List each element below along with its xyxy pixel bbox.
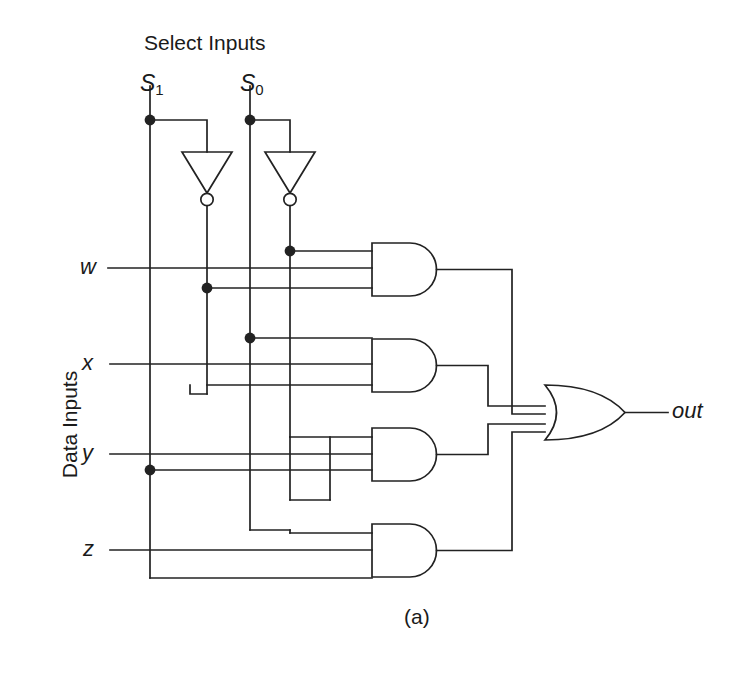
inverter-s1-bubble <box>201 193 213 205</box>
select-input-label-s1: S1 <box>140 72 164 97</box>
data-input-label-w: w <box>80 256 96 278</box>
circuit-schematic <box>0 0 748 696</box>
wire-s1-to-inverter <box>150 120 207 152</box>
data-inputs-label: Data Inputs <box>59 340 80 510</box>
junction-s1-and3 <box>145 465 156 476</box>
and-gate-2-body <box>372 339 437 392</box>
data-input-label-y: y <box>82 442 93 464</box>
wire-s0-to-inverter <box>250 120 290 152</box>
junction-s0n-and1 <box>285 246 296 257</box>
inverter-s1-body <box>182 152 232 193</box>
junction-s1n-and1 <box>202 283 213 294</box>
and-gate-1-body <box>372 243 437 296</box>
select-input-label-s0: S0 <box>240 72 264 97</box>
wire-and1-out <box>437 270 546 415</box>
s0-subscript: 0 <box>255 81 263 98</box>
inverter-s0-body <box>265 152 315 193</box>
figure-caption: (a) <box>404 606 430 627</box>
s1-subscript: 1 <box>155 81 163 98</box>
and-gate-3-body <box>372 428 437 481</box>
output-label: out <box>672 400 703 422</box>
data-input-label-z: z <box>83 538 94 560</box>
junction-s0-top <box>245 115 256 126</box>
s0-base: S <box>240 70 255 96</box>
select-inputs-label: Select Inputs <box>144 32 265 53</box>
wire-and2-out <box>437 366 546 407</box>
junction-s1-top <box>145 115 156 126</box>
wire-and4-out <box>437 432 546 551</box>
wire-and3-out <box>437 424 546 455</box>
or-gate-body <box>545 385 625 440</box>
and-gate-4-body <box>372 524 437 577</box>
inverter-s0-bubble <box>284 193 296 205</box>
figure-canvas: Select Inputs Data Inputs S1 S0 w x y z … <box>0 0 748 696</box>
junction-s0-and2 <box>245 333 256 344</box>
wire-and3-in-s0n-hook-hidden <box>290 437 330 500</box>
s1-base: S <box>140 70 155 96</box>
wire-and2-in-s1n-hook <box>190 385 207 394</box>
data-input-label-x: x <box>82 352 93 374</box>
